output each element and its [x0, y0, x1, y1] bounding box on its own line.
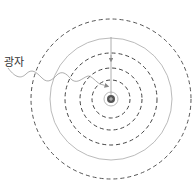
atom-diagram: [0, 0, 196, 192]
